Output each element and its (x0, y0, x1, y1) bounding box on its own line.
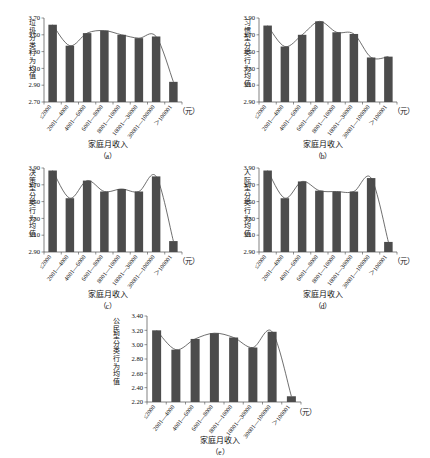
chart-panel-d: 人际型分类行为均值 3.903.703.503.303.102.90≤20002… (215, 152, 430, 312)
axis-lines (44, 18, 182, 102)
x-tick-label: ≤2000 (37, 103, 52, 120)
x-tick-label: ≤2000 (141, 403, 156, 420)
x-axis-label-e: 家庭月收入 (105, 434, 335, 445)
bar-b-3 (315, 21, 324, 102)
y-tick-label: 3.20 (131, 327, 143, 334)
bar-a-0 (48, 25, 57, 102)
y-tick-label: 3.50 (28, 31, 40, 38)
axis-lines (44, 168, 182, 252)
x-axis-label-c: 家庭月收入 (0, 288, 215, 299)
y-tick-label: 3.70 (28, 14, 40, 21)
x-axis-label-a: 家庭月收入 (0, 138, 215, 149)
chart-panel-c: 决策型分类行为均值 3.903.703.503.303.102.90≤20002… (0, 152, 215, 312)
bar-e-3 (210, 333, 219, 402)
bar-e-2 (191, 339, 200, 402)
axis-lines (259, 168, 397, 252)
bar-b-0 (263, 26, 272, 102)
axis-lines (259, 18, 397, 102)
y-tick-label: 3.30 (28, 215, 40, 222)
bar-a-5 (135, 38, 144, 102)
y-tick-label: 2.60 (131, 370, 143, 377)
x-tick-label: ＞100001 (153, 103, 174, 127)
y-tick-label: 3.10 (28, 231, 40, 238)
y-tick-label: 3.30 (243, 215, 255, 222)
x-tick-label: ＞100001 (368, 253, 389, 277)
y-tick-label: 3.90 (243, 14, 255, 21)
y-tick-label: 3.00 (131, 341, 143, 348)
bar-c-3 (100, 192, 109, 252)
bar-a-4 (117, 35, 126, 102)
unit-label-e: （元） (295, 406, 316, 417)
bar-e-7 (287, 396, 296, 402)
bar-a-2 (83, 33, 92, 102)
bar-b-5 (350, 34, 359, 102)
x-tick-label: ＞100001 (271, 403, 292, 427)
y-tick-label: 3.10 (28, 65, 40, 72)
y-tick-label: 3.50 (243, 198, 255, 205)
unit-label-b: （元） (393, 105, 414, 116)
chart-panel-a: 垃圾分类行为均值 3.703.503.303.102.902.70≤200020… (0, 2, 215, 162)
axis-lines (147, 316, 301, 402)
unit-label-a: （元） (178, 105, 199, 116)
chart-panel-b: 习惯型分类行为均值 3.903.703.503.303.102.90≤20002… (215, 2, 430, 162)
bar-d-1 (281, 198, 290, 252)
bar-c-2 (83, 181, 92, 252)
x-tick-label: ＞100001 (153, 253, 174, 277)
y-tick-label: 3.50 (243, 48, 255, 55)
unit-label-d: （元） (393, 255, 414, 266)
figure-page: 垃圾分类行为均值 3.703.503.303.102.902.70≤200020… (0, 0, 430, 458)
bar-e-4 (229, 338, 238, 403)
bar-d-7 (384, 242, 393, 252)
bar-a-3 (100, 31, 109, 102)
bar-e-1 (171, 350, 180, 402)
y-tick-label: 2.70 (28, 98, 40, 105)
bar-c-6 (152, 176, 161, 252)
bar-e-0 (152, 330, 161, 402)
y-tick-label: 2.90 (243, 98, 255, 105)
x-tick-label: ≤2000 (37, 253, 52, 270)
y-tick-label: 3.90 (243, 164, 255, 171)
y-tick-label: 2.80 (131, 355, 143, 362)
bar-d-6 (367, 178, 376, 252)
bar-d-4 (332, 192, 341, 252)
y-tick-label: 3.70 (28, 181, 40, 188)
y-tick-label: 3.10 (243, 231, 255, 238)
bar-c-5 (135, 192, 144, 252)
bar-c-0 (48, 171, 57, 252)
bar-d-2 (298, 181, 307, 252)
y-tick-label: 2.90 (28, 248, 40, 255)
y-tick-label: 3.70 (243, 31, 255, 38)
unit-label-c: （元） (178, 255, 199, 266)
x-axis-label-d: 家庭月收入 (215, 288, 430, 299)
x-tick-label: ＞100001 (368, 103, 389, 127)
y-tick-label: 3.30 (28, 48, 40, 55)
y-tick-label: 3.10 (243, 81, 255, 88)
y-tick-label: 3.40 (131, 312, 143, 319)
bar-d-0 (263, 171, 272, 252)
bar-d-3 (315, 191, 324, 252)
bar-b-7 (384, 57, 393, 102)
bar-b-1 (281, 47, 290, 102)
x-tick-label: ≤2000 (252, 103, 267, 120)
x-tick-label: ≤2000 (252, 253, 267, 270)
y-tick-label: 3.90 (28, 164, 40, 171)
y-tick-label: 2.90 (28, 81, 40, 88)
bar-c-7 (169, 241, 178, 252)
chart-panel-e: 公民型分类行为均值 3.403.203.002.802.602.402.20≤2… (105, 302, 335, 458)
y-tick-label: 3.30 (243, 65, 255, 72)
bar-a-7 (169, 82, 178, 102)
bar-c-1 (66, 198, 75, 252)
bar-e-5 (248, 348, 257, 402)
bar-b-4 (332, 32, 341, 102)
bar-b-6 (367, 57, 376, 102)
bar-d-5 (350, 192, 359, 252)
y-tick-label: 2.40 (131, 384, 143, 391)
y-tick-label: 2.20 (131, 398, 143, 405)
bar-a-6 (152, 36, 161, 102)
bar-e-6 (268, 332, 277, 402)
y-tick-label: 3.50 (28, 198, 40, 205)
bar-c-4 (117, 189, 126, 252)
figure-caption-e: （e） (105, 446, 335, 457)
bar-a-1 (66, 46, 75, 102)
bar-b-2 (298, 35, 307, 102)
